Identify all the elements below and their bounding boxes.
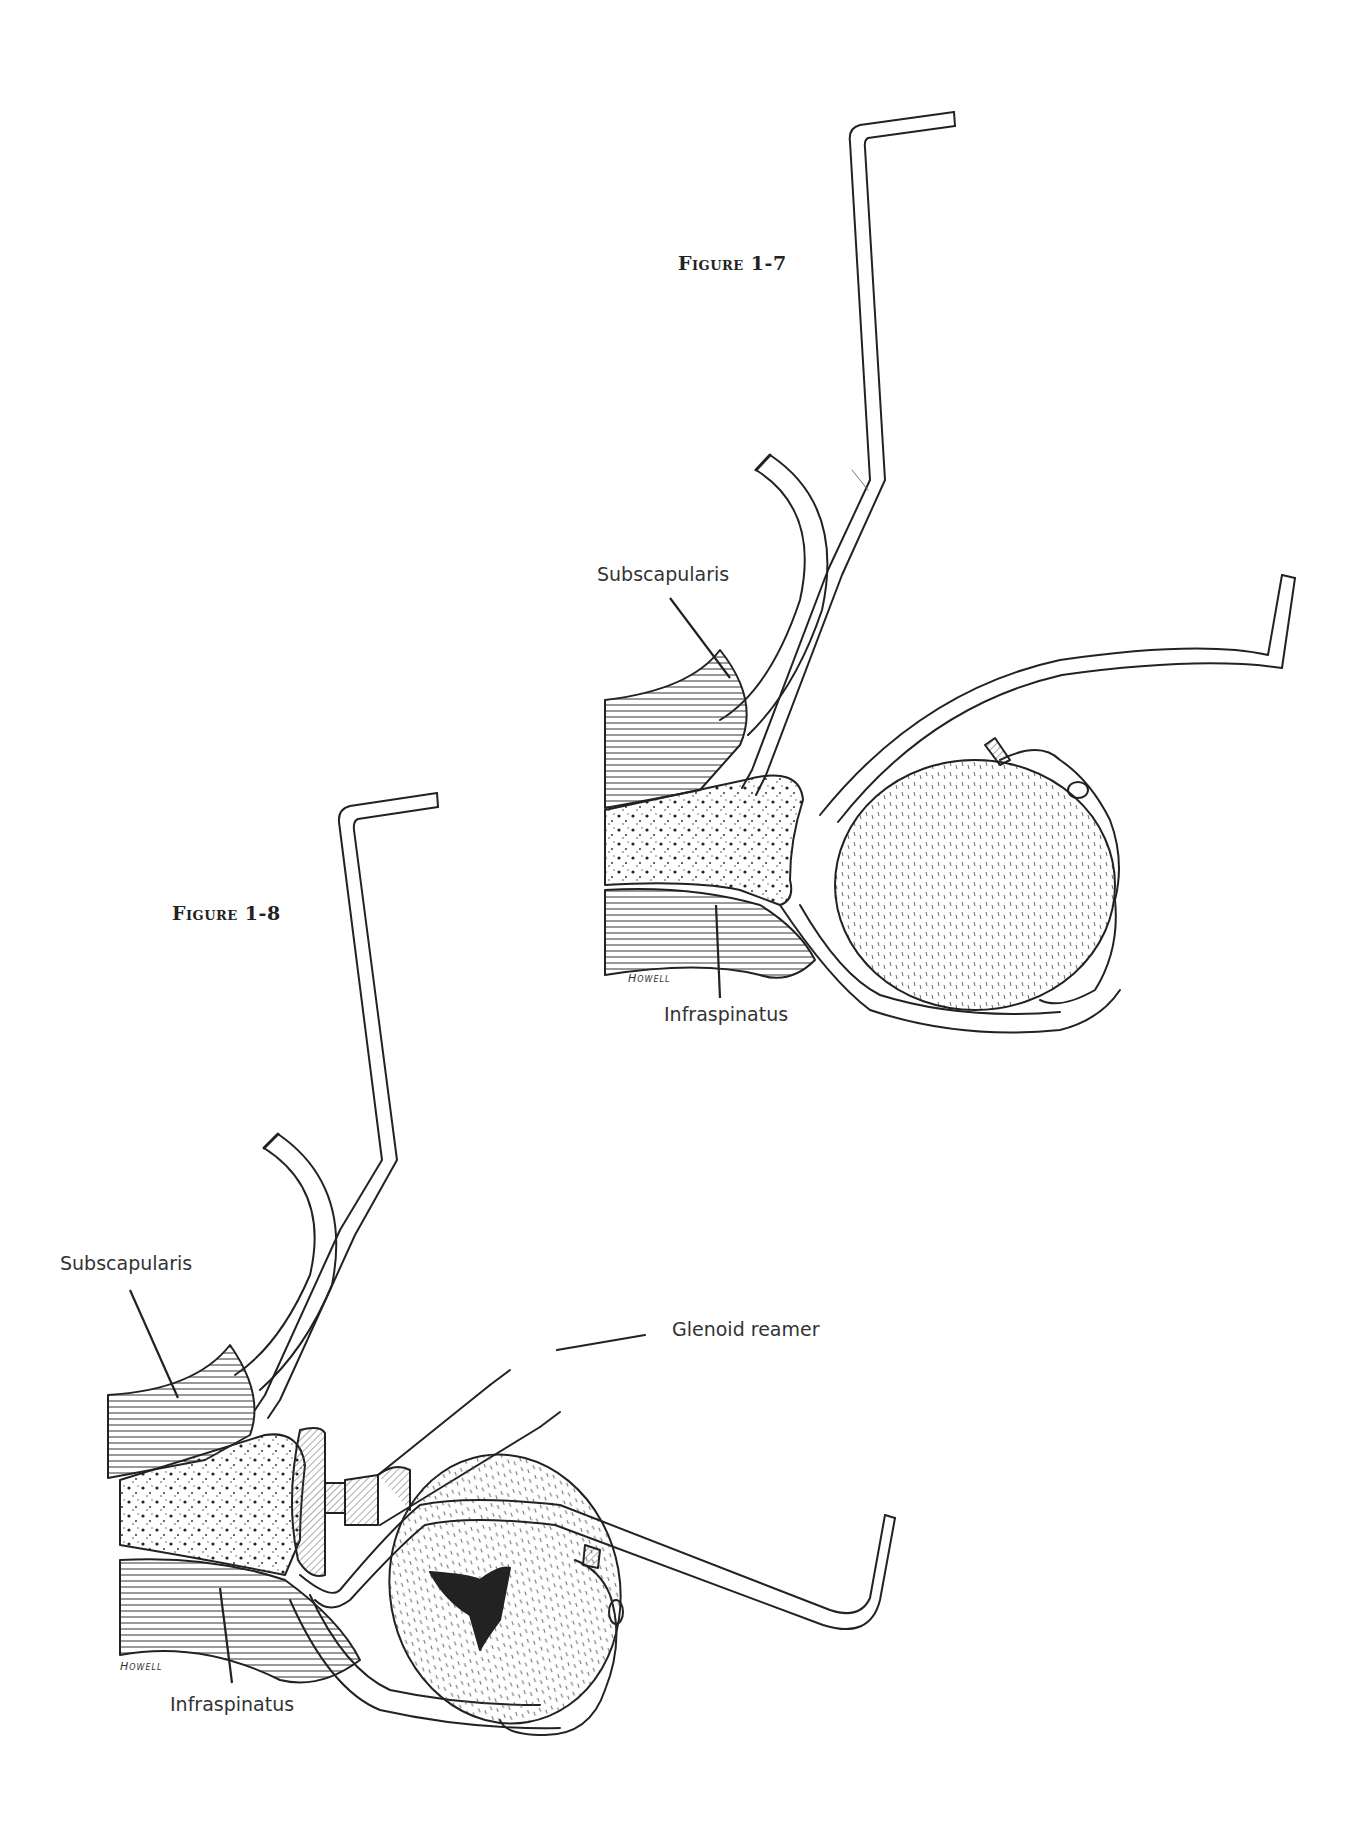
retractor-upper-figure-1-7 [742,112,955,795]
figure-1-7-title: Figure 1-7 [678,252,787,274]
retractor-upper-figure-1-8 [255,793,438,1418]
infraspinatus-label-figure-1-7: Infraspinatus [664,1003,788,1025]
subscapularis-leader-figure-1-7 [670,598,730,678]
subscapularis-label-figure-1-7: Subscapularis [597,563,729,585]
glenoid-reamer-leader [557,1335,645,1350]
subscapularis-label-figure-1-8: Subscapularis [60,1252,192,1274]
glenoid-reamer-label: Glenoid reamer [672,1318,819,1340]
infraspinatus-label-figure-1-8: Infraspinatus [170,1693,294,1715]
figure-1-8-title: Figure 1-8 [172,902,281,924]
subscapularis-leader-figure-1-8 [130,1290,178,1398]
artist-signature-figure-1-7: Howell [628,972,670,985]
reamer-head-figure-1-8 [292,1428,325,1576]
artist-signature-figure-1-8: Howell [120,1660,162,1673]
